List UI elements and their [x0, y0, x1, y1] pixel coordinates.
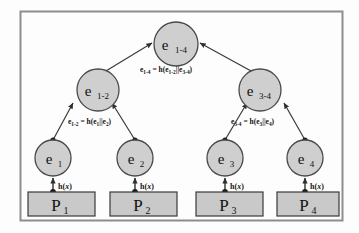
node-e3-4-label: e	[247, 83, 254, 99]
node-root-label: e	[162, 37, 169, 53]
edge-e2-to-e12	[112, 103, 138, 143]
hash-label-p4-suffix: )	[321, 182, 324, 191]
data-block-p3-sublabel: 3	[232, 205, 237, 216]
node-leaf-e4[interactable]: e 4	[287, 140, 323, 176]
svg-text:h(x): h(x)	[140, 182, 154, 191]
data-block-p3-label: P	[219, 196, 228, 215]
node-e2-sublabel: 2	[140, 159, 145, 169]
node-e2-label: e	[128, 151, 135, 167]
data-block-p2-sublabel: 2	[146, 205, 151, 216]
svg-text:h(x): h(x)	[310, 182, 324, 191]
data-block-p2-label: P	[133, 196, 142, 215]
diagram-canvas: e 1-4 e 1-2 e 3-4 e 1 e 2 e 3	[0, 0, 359, 233]
hash-label-p4: h(x)	[310, 182, 324, 191]
node-e4-label: e	[298, 151, 305, 167]
data-block-p1-sublabel: 1	[64, 205, 69, 216]
node-root-e1-4[interactable]: e 1-4	[154, 22, 198, 66]
hash-label-p1-suffix: )	[69, 182, 72, 191]
merkle-tree-figure: e 1-4 e 1-2 e 3-4 e 1 e 2 e 3	[0, 0, 359, 233]
hash-label-p1: h(x)	[58, 182, 72, 191]
node-e3-4-sublabel: 3-4	[259, 91, 271, 101]
data-block-p1-label: P	[51, 196, 60, 215]
data-block-p4-label: P	[299, 196, 308, 215]
node-e1-2-sublabel: 1-2	[97, 91, 109, 101]
data-block-p4[interactable]: P 4	[277, 192, 339, 216]
svg-text:e1-4 = h(e1-2||e3-4): e1-4 = h(e1-2||e3-4)	[140, 65, 193, 75]
equation-left-close: )	[109, 117, 112, 126]
node-leaf-e1[interactable]: e 1	[35, 140, 71, 176]
node-internal-e3-4[interactable]: e 3-4	[239, 69, 281, 111]
node-leaf-e3[interactable]: e 3	[207, 140, 243, 176]
node-e1-sublabel: 1	[58, 159, 63, 169]
data-block-p2[interactable]: P 2	[110, 192, 177, 216]
node-e4-sublabel: 4	[310, 159, 315, 169]
equation-left: e1-2 = h(e1||e2)	[68, 117, 112, 127]
hash-label-p3-suffix: )	[241, 182, 244, 191]
equation-right-close: )	[272, 117, 275, 126]
equation-left-op: = h(e	[79, 117, 98, 126]
data-block-p4-sublabel: 4	[312, 205, 317, 216]
hash-label-p3: h(x)	[230, 182, 244, 191]
svg-text:h(x): h(x)	[58, 182, 72, 191]
equation-root-close: )	[190, 65, 193, 74]
hash-label-p2: h(x)	[140, 182, 154, 191]
equation-root-op: = h(e	[151, 65, 170, 74]
node-e3-label: e	[218, 151, 225, 167]
hash-label-p2-suffix: )	[151, 182, 154, 191]
node-e1-2-label: e	[85, 83, 92, 99]
data-block-p3[interactable]: P 3	[196, 192, 263, 216]
node-leaf-e2[interactable]: e 2	[117, 140, 153, 176]
equation-root: e1-4 = h(e1-2||e3-4)	[140, 65, 193, 75]
svg-text:e1-2 = h(e1||e2): e1-2 = h(e1||e2)	[68, 117, 112, 127]
data-block-p1[interactable]: P 1	[28, 192, 95, 216]
node-internal-e1-2[interactable]: e 1-2	[77, 69, 119, 111]
node-e1-label: e	[46, 151, 53, 167]
equation-right-op: = h(e	[242, 117, 261, 126]
node-e3-sublabel: 3	[230, 159, 235, 169]
edge-e4-to-e34	[284, 103, 308, 143]
node-root-sublabel: 1-4	[175, 45, 187, 55]
svg-text:h(x): h(x)	[230, 182, 244, 191]
